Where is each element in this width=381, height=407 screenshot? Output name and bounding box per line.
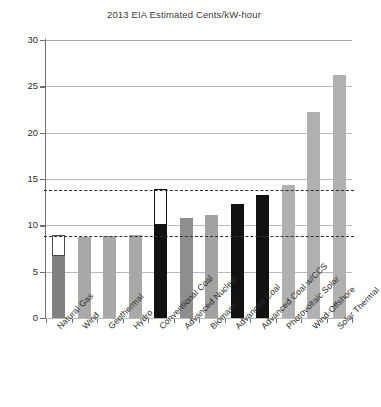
y-tick-mark — [40, 40, 45, 41]
gridline — [46, 225, 352, 226]
bar-hollow-segment — [154, 189, 167, 226]
y-tick-label: 5 — [14, 266, 38, 277]
y-tick-label-wrap: 20 — [0, 127, 38, 139]
y-tick-mark — [40, 179, 45, 180]
y-tick-label: 25 — [14, 80, 38, 91]
y-tick-label: 30 — [14, 34, 38, 45]
y-tick-label: 0 — [14, 312, 38, 323]
y-tick-mark — [40, 318, 45, 319]
y-tick-label: 10 — [14, 219, 38, 230]
y-tick-label-wrap: 0 — [0, 312, 38, 324]
upper-dashed-reference — [44, 190, 354, 191]
lower-dashed-reference — [44, 236, 354, 237]
gridline — [46, 133, 352, 134]
y-tick-label: 20 — [14, 127, 38, 138]
gridline — [46, 272, 352, 273]
bar-solid-segment — [103, 236, 116, 318]
chart-title: 2013 EIA Estimated Cents/kW-hour — [0, 9, 368, 20]
y-tick-mark — [40, 133, 45, 134]
bar-solid-segment — [52, 256, 65, 318]
y-tick-mark — [40, 86, 45, 87]
bar — [154, 190, 167, 318]
bar-hollow-segment — [52, 235, 65, 256]
y-tick-mark — [40, 272, 45, 273]
y-tick-label-wrap: 30 — [0, 34, 38, 46]
y-tick-label-wrap: 25 — [0, 80, 38, 92]
y-tick-label-wrap: 10 — [0, 219, 38, 231]
bar-solid-segment — [154, 225, 167, 318]
gridline — [46, 179, 352, 180]
y-tick-mark — [40, 225, 45, 226]
y-tick-label-wrap: 5 — [0, 266, 38, 278]
y-tick-label-wrap: 15 — [0, 173, 38, 185]
bar — [52, 236, 65, 318]
y-tick-label: 15 — [14, 173, 38, 184]
gridline — [46, 40, 352, 41]
bar — [103, 236, 116, 318]
gridline — [46, 86, 352, 87]
